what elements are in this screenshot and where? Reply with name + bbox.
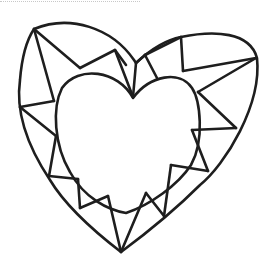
inner-heart-table	[56, 73, 200, 213]
facet-line	[20, 101, 54, 107]
facet-line	[133, 63, 136, 97]
heart-facet-diagram	[0, 0, 273, 266]
facet-line	[136, 55, 145, 63]
facet-line	[146, 193, 164, 216]
facet-line	[34, 29, 80, 68]
facet-line	[145, 37, 181, 55]
facet-line	[80, 50, 115, 68]
facet-line	[145, 55, 157, 78]
facet-line	[34, 29, 54, 101]
facet-lines	[20, 29, 256, 252]
facet-line	[78, 179, 80, 208]
facet-line	[181, 37, 183, 71]
facet-line	[49, 136, 56, 176]
facet-line	[198, 92, 236, 128]
